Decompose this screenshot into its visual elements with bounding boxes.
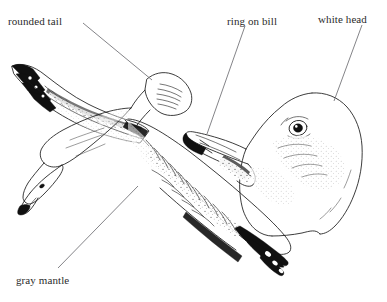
label-rounded-tail: rounded tail	[8, 15, 62, 27]
head-streaking	[250, 136, 345, 205]
gull-illustration-artwork: .ol { fill:none; stroke:#1a1a1a; stroke-…	[0, 0, 387, 302]
label-ring-on-bill: ring on bill	[227, 15, 277, 27]
bill	[183, 132, 255, 187]
leader-gray-mantle	[58, 186, 138, 268]
leader-white-head	[334, 25, 362, 101]
illustration-plate: .ol { fill:none; stroke:#1a1a1a; stroke-…	[0, 0, 387, 302]
eye	[281, 117, 310, 139]
gull-in-flight-figure	[12, 64, 291, 275]
label-white-head: white head	[318, 13, 367, 25]
leader-rounded-tail	[83, 23, 152, 80]
leader-ring-on-bill	[207, 26, 245, 134]
flight-head	[18, 163, 63, 215]
label-gray-mantle: gray mantle	[16, 274, 69, 286]
rounded-tail	[131, 73, 192, 128]
